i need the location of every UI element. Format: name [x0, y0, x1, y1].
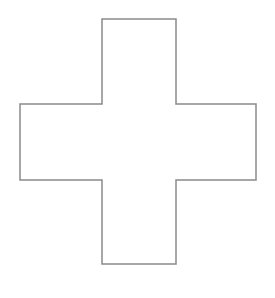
cross-shape-svg	[0, 0, 275, 298]
drawing-canvas	[0, 0, 275, 298]
canvas-background	[0, 0, 275, 298]
